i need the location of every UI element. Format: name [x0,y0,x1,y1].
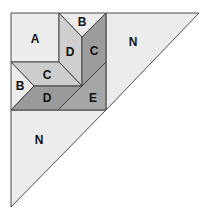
piece-n-right [106,13,199,110]
diagram-canvas: A B D C N C B D E N [0,0,207,219]
piece-n-bottom [11,110,106,207]
label-c-horizontal: C [43,68,52,82]
label-d-horizontal: D [43,91,52,105]
label-a: A [31,32,40,46]
label-n-bottom: N [35,133,44,147]
label-c-vertical: C [90,44,99,58]
quilt-block-diagram: A B D C N C B D E N [0,0,207,219]
label-b-left: B [16,79,25,93]
label-e: E [89,91,97,105]
label-n-right: N [129,35,138,49]
label-b-top: B [78,15,87,29]
label-d-vertical: D [66,45,75,59]
